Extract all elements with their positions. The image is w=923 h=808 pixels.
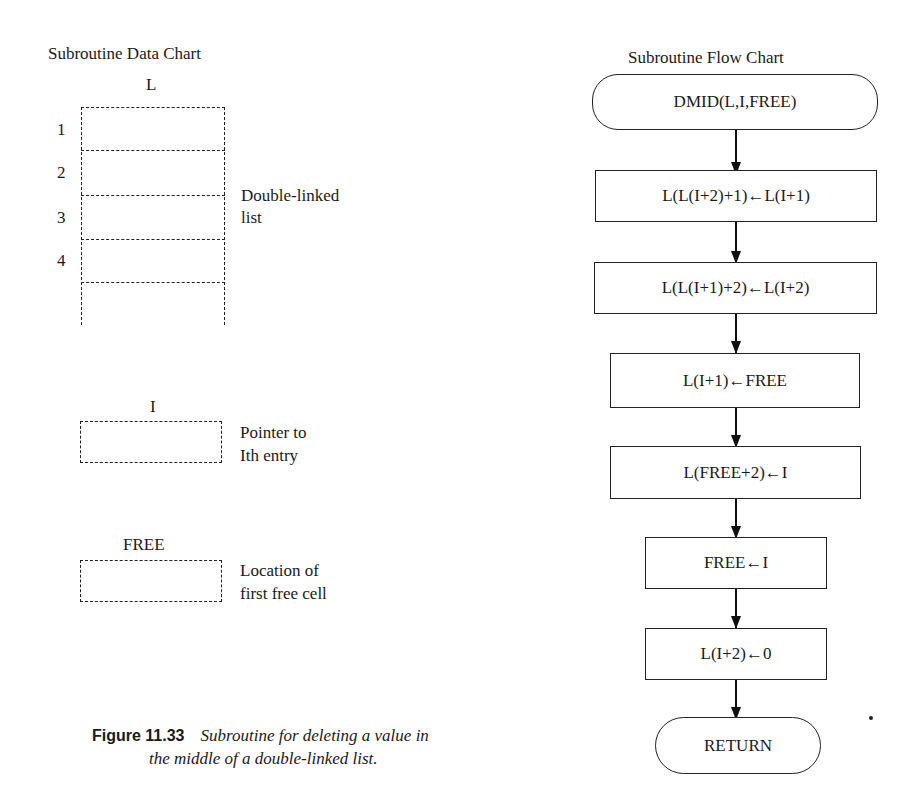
figure-label: Figure 11.33	[92, 727, 185, 744]
list-row-divider-1	[81, 150, 225, 151]
list-left-border	[81, 107, 82, 325]
list-description-line2: list	[241, 207, 262, 229]
list-row-divider-4	[81, 282, 225, 283]
list-row-divider-2	[81, 195, 225, 196]
pointer-description-line2: Ith entry	[240, 445, 298, 467]
free-box	[80, 560, 222, 602]
flow-step-2: L(L(I+1)+2)←L(I+2)	[594, 262, 877, 314]
free-label: FREE	[123, 534, 165, 556]
flow-step-1: L(L(I+2)+1)←L(I+1)	[595, 170, 877, 222]
list-row-label-1: 1	[57, 119, 66, 141]
list-description-line1: Double-linked	[241, 185, 339, 207]
list-right-border	[224, 107, 225, 325]
list-L-label: L	[146, 74, 156, 96]
flow-step-4: L(FREE+2)←I	[610, 446, 861, 499]
list-top-border	[81, 107, 225, 108]
flow-step-5: FREE←I	[645, 537, 827, 589]
pointer-description-line1: Pointer to	[240, 422, 307, 444]
data-chart-title: Subroutine Data Chart	[48, 44, 201, 64]
stray-dot	[869, 716, 873, 720]
caption-text-line1: Subroutine for deleting a value in	[201, 726, 429, 745]
figure-caption: Figure 11.33 Subroutine for deleting a v…	[92, 726, 429, 746]
caption-text-line2: the middle of a double-linked list.	[149, 749, 378, 769]
flow-start-terminal: DMID(L,I,FREE)	[592, 74, 878, 130]
flow-step-6: L(I+2)←0	[645, 628, 827, 680]
list-row-label-4: 4	[57, 250, 66, 272]
list-row-label-2: 2	[57, 162, 66, 184]
pointer-I-label: I	[150, 396, 156, 418]
flow-step-3: L(I+1)←FREE	[610, 353, 860, 408]
flow-chart-title: Subroutine Flow Chart	[628, 48, 784, 68]
flow-end-terminal: RETURN	[655, 717, 821, 774]
free-description-line2: first free cell	[240, 583, 327, 605]
list-row-divider-3	[81, 239, 225, 240]
pointer-I-box	[80, 421, 222, 463]
free-description-line1: Location of	[240, 560, 319, 582]
list-row-label-3: 3	[57, 207, 66, 229]
